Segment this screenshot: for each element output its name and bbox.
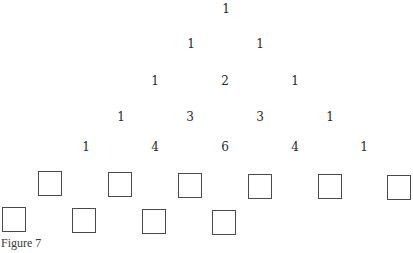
triangle-number: 1 [326, 111, 334, 123]
empty-box [248, 174, 272, 199]
triangle-number: 6 [221, 141, 229, 153]
triangle-number: 1 [151, 75, 159, 87]
triangle-number: 4 [291, 141, 299, 153]
triangle-number: 1 [187, 38, 195, 50]
empty-box [72, 208, 96, 233]
triangle-number: 3 [256, 111, 264, 123]
empty-box [108, 172, 132, 197]
triangle-number: 3 [186, 111, 194, 123]
triangle-number: 1 [117, 111, 125, 123]
empty-box [142, 209, 166, 234]
triangle-number: 1 [360, 141, 368, 153]
figure-caption: Figure 7 [1, 236, 41, 250]
triangle-number: 4 [151, 141, 159, 153]
empty-box [2, 207, 26, 232]
triangle-number: 1 [256, 38, 264, 50]
empty-box [212, 210, 236, 235]
triangle-number: 1 [291, 75, 299, 87]
empty-box [38, 171, 62, 196]
empty-box [318, 174, 342, 199]
triangle-number: 1 [82, 141, 90, 153]
empty-box [387, 175, 411, 200]
empty-box [178, 173, 202, 198]
triangle-number: 1 [222, 3, 230, 15]
triangle-number: 2 [221, 75, 229, 87]
